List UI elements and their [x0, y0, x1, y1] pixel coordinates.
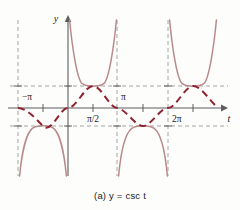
figure-panel: y t −π π/2 π 2π (a) y = csc t [0, 0, 240, 210]
csc-branch-2pi-3pi [170, 20, 217, 86]
y-axis-label: y [53, 13, 59, 24]
x-axis-label: t [228, 113, 231, 124]
csc-branch-neg-pi-0 [20, 126, 67, 176]
sin-curve [18, 86, 218, 128]
x-axis-arrowhead [221, 105, 228, 112]
csc-plot: y t −π π/2 π 2π [0, 0, 240, 180]
sin-wave-path [18, 86, 218, 128]
ticklabel-2pi: 2π [172, 114, 182, 124]
figure-caption: (a) y = csc t [0, 190, 240, 201]
ticklabel-pi: π [121, 92, 126, 102]
caption-text: (a) y = csc t [94, 190, 146, 201]
axes [8, 22, 221, 176]
csc-branch-pi-2pi [119, 126, 168, 176]
csc-branch-0-pi [70, 20, 117, 86]
ticklabel-neg-pi: −π [22, 92, 32, 102]
ticklabel-pi-over-2: π/2 [87, 114, 99, 124]
asymptote-lines [18, 20, 168, 176]
csc-curve [20, 20, 217, 176]
